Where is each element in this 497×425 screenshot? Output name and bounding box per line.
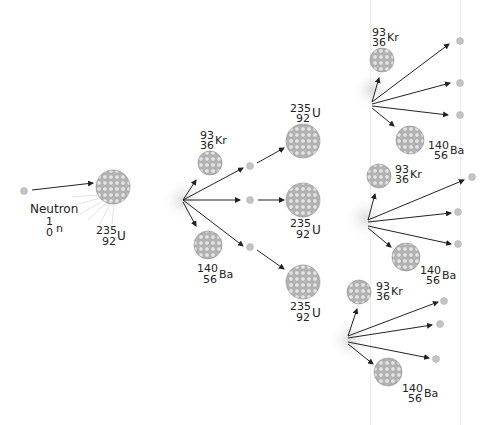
- u235-nucleus-icon: [96, 170, 130, 204]
- kr93-symbol: Kr: [391, 287, 403, 297]
- neutron-number: 0: [46, 228, 53, 238]
- kr93-symbol: Kr: [387, 33, 399, 43]
- ba140-symbol: Ba: [442, 271, 456, 281]
- u235-nucleus-icon: [286, 265, 320, 299]
- u235-symbol: U: [117, 231, 126, 241]
- ba140-symbol: Ba: [219, 270, 233, 280]
- kr93-symbol: Kr: [215, 136, 227, 146]
- ba140-symbol: Ba: [450, 146, 464, 156]
- u235-symbol: U: [312, 225, 321, 235]
- u235-nucleus-icon: [286, 124, 320, 158]
- kr93-nucleus-icon: [198, 151, 222, 175]
- fission-flash-icon: [161, 70, 392, 362]
- u235-number: 92: [296, 313, 310, 323]
- kr93-number: 36: [372, 38, 386, 48]
- u235-symbol: U: [312, 108, 321, 118]
- ba140-symbol: Ba: [424, 389, 438, 399]
- u235-symbol: U: [312, 308, 321, 318]
- ba140-nucleus-icon: [194, 231, 222, 259]
- fission-chain-diagram: Neutron 1 0 n 235 92 U 93 36 Kr 140 56 B…: [0, 0, 497, 425]
- ba140-number: 56: [203, 275, 217, 285]
- neutron-label: Neutron: [30, 204, 78, 214]
- ba140-number: 56: [426, 276, 440, 286]
- u235-nucleus-icon: [286, 183, 320, 217]
- u235-number: 92: [102, 237, 116, 247]
- kr93-number: 36: [376, 292, 390, 302]
- u235-number: 92: [296, 230, 310, 240]
- u235-number: 92: [296, 114, 310, 124]
- ba140-number: 56: [408, 394, 422, 404]
- ba140-number: 56: [434, 151, 448, 161]
- kr93-number: 36: [395, 175, 409, 185]
- kr93-number: 36: [200, 141, 214, 151]
- kr93-symbol: Kr: [410, 170, 422, 180]
- neutron-symbol: n: [56, 224, 63, 234]
- neutron-icon: [21, 188, 28, 195]
